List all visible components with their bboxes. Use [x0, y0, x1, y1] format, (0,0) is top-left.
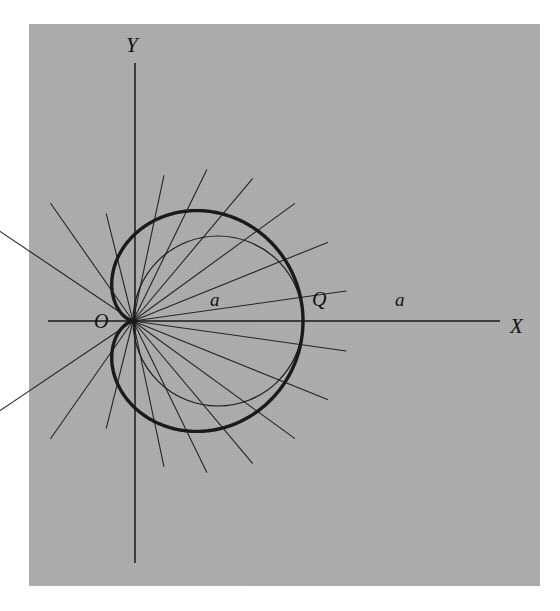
origin-point-label: O [94, 310, 108, 333]
chord-ray [133, 170, 207, 321]
chord-ray [133, 321, 164, 466]
axes-group [48, 63, 500, 563]
cardioid-diagram-svg [0, 0, 560, 611]
segment-label-a-right: a [395, 289, 405, 311]
chord-ray [133, 321, 328, 400]
x-axis-label: X [510, 314, 523, 339]
chord-ray [106, 321, 133, 428]
chord-ray [133, 242, 328, 321]
figure-root: Y X O Q a a [0, 0, 560, 611]
chord-ray [133, 321, 207, 472]
chord-ray [133, 321, 346, 351]
circle-center-label: Q [312, 288, 326, 311]
chord-ray [51, 321, 133, 439]
segment-label-a-left: a [210, 289, 220, 311]
chord-ray [133, 321, 252, 463]
chord-ray [133, 176, 164, 321]
chord-ray [51, 203, 133, 321]
y-axis-label: Y [126, 33, 138, 58]
chord-ray [133, 179, 252, 321]
chord-ray [106, 214, 133, 321]
